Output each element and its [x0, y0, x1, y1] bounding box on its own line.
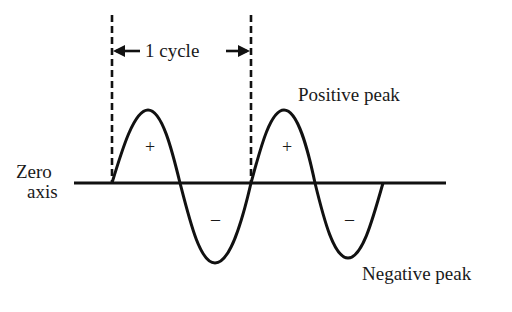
- zero-axis-label-line2: axis: [27, 182, 58, 202]
- cycle-right-arrow-icon: [226, 45, 250, 57]
- zero-axis-label-line1: Zero: [16, 162, 52, 182]
- positive-sign-2: +: [282, 138, 292, 156]
- positive-peak-label: Positive peak: [298, 85, 400, 105]
- sine-wave-curve: [112, 110, 383, 263]
- negative-sign-1: –: [211, 210, 220, 228]
- positive-sign-1: +: [145, 138, 155, 156]
- cycle-left-arrow-icon: [113, 45, 140, 57]
- negative-peak-label: Negative peak: [362, 264, 471, 284]
- cycle-label: 1 cycle: [145, 41, 199, 61]
- negative-sign-2: –: [345, 210, 354, 228]
